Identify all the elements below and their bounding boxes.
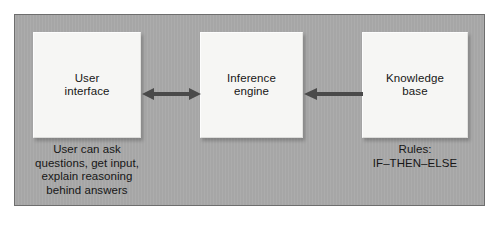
arrow-left-svg (304, 83, 363, 105)
arrow-bidirectional-icon (142, 83, 201, 105)
node-user-interface-label: User interface (64, 72, 109, 99)
node-inference-engine[interactable]: Inference engine (200, 32, 303, 138)
node-inference-engine-label: Inference engine (227, 72, 276, 99)
node-knowledge-base[interactable]: Knowledge base (362, 32, 468, 138)
caption-knowledge-base: Rules: IF–THEN–ELSE (352, 143, 478, 170)
diagram-root: User interface Inference engine Knowledg… (0, 0, 501, 228)
diagram-frame: User interface Inference engine Knowledg… (14, 14, 485, 206)
arrow-bidirectional-svg (142, 83, 201, 105)
caption-user-interface: User can ask questions, get input, expla… (21, 143, 153, 197)
node-user-interface[interactable]: User interface (33, 32, 141, 138)
arrow-left-icon (304, 83, 363, 105)
node-knowledge-base-label: Knowledge base (386, 72, 444, 99)
